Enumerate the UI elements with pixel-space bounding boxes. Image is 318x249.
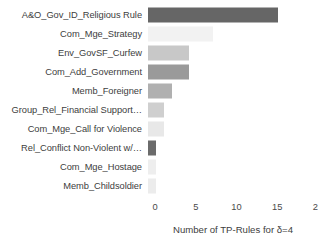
x-tick-label: 10 xyxy=(231,202,241,212)
bar-row: Com_Add_Government xyxy=(0,62,318,81)
category-label: Com_Add_Government xyxy=(0,67,148,77)
bar-row: Com_Mge_Strategy xyxy=(0,24,318,43)
x-axis: 05101520 xyxy=(148,200,318,222)
x-axis-title: Number of TP-Rules for δ=4 xyxy=(148,224,318,235)
category-label: Com_Mge_Hostage xyxy=(0,162,148,172)
category-label: Com_Mge_Call for Violence xyxy=(0,124,148,134)
bar xyxy=(148,7,278,22)
bar xyxy=(148,64,189,79)
category-label: Memb_Childsoldier xyxy=(0,181,148,191)
bar-row: Com_Mge_Call for Violence xyxy=(0,119,318,138)
bar-row: Group_Rel_Financial Support… xyxy=(0,100,318,119)
category-label: Env_GovSF_Curfew xyxy=(0,48,148,58)
bar xyxy=(148,83,172,98)
bar-track xyxy=(148,138,318,157)
bar-track xyxy=(148,62,318,81)
category-label: Com_Mge_Strategy xyxy=(0,29,148,39)
bar-track xyxy=(148,5,318,24)
category-label: Memb_Foreigner xyxy=(0,86,148,96)
bar-row: A&O_Gov_ID_Religious Rule xyxy=(0,5,318,24)
x-tick-label: 0 xyxy=(152,202,157,212)
category-label: Rel_Conflict Non-Violent w/… xyxy=(0,143,148,153)
bar xyxy=(148,121,164,136)
x-tick-label: 15 xyxy=(272,202,282,212)
bar-row: Memb_Foreigner xyxy=(0,81,318,100)
bar xyxy=(148,159,156,174)
bar-row: Com_Mge_Hostage xyxy=(0,157,318,176)
bar-track xyxy=(148,100,318,119)
bar xyxy=(148,26,213,41)
bar xyxy=(148,45,189,60)
bar-track xyxy=(148,24,318,43)
bar xyxy=(148,178,156,193)
category-label: Group_Rel_Financial Support… xyxy=(0,105,148,115)
bar-track xyxy=(148,176,318,195)
x-tick-label: 20 xyxy=(313,202,318,212)
bar-row: Env_GovSF_Curfew xyxy=(0,43,318,62)
bar-track xyxy=(148,81,318,100)
bar xyxy=(148,140,156,155)
horizontal-bar-chart: A&O_Gov_ID_Religious RuleCom_Mge_Strateg… xyxy=(0,0,318,249)
x-tick-label: 5 xyxy=(193,202,198,212)
bar-row: Rel_Conflict Non-Violent w/… xyxy=(0,138,318,157)
bar-track xyxy=(148,119,318,138)
bar-row: Memb_Childsoldier xyxy=(0,176,318,195)
bar xyxy=(148,102,164,117)
plot-area: A&O_Gov_ID_Religious RuleCom_Mge_Strateg… xyxy=(0,0,318,200)
bar-track xyxy=(148,43,318,62)
category-label: A&O_Gov_ID_Religious Rule xyxy=(0,10,148,20)
bar-track xyxy=(148,157,318,176)
